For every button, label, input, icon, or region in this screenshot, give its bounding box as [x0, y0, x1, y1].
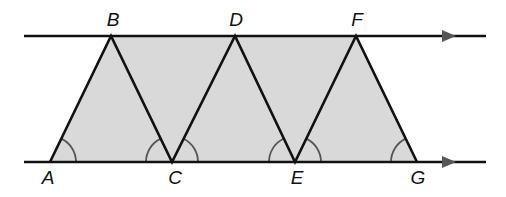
vertex-label-c: C	[168, 168, 182, 187]
vertex-label-d: D	[229, 10, 243, 29]
shaded-region	[50, 36, 417, 162]
vertex-label-f: F	[351, 10, 363, 29]
top-line-arrow-icon	[442, 30, 456, 42]
vertex-label-g: G	[411, 168, 426, 187]
vertex-label-e: E	[291, 168, 304, 187]
bottom-line-arrow-icon	[442, 156, 456, 168]
vertex-label-a: A	[42, 168, 55, 187]
geometry-figure: A B C D E F G	[0, 0, 506, 197]
vertex-label-b: B	[107, 10, 120, 29]
diagram-canvas	[0, 0, 506, 197]
